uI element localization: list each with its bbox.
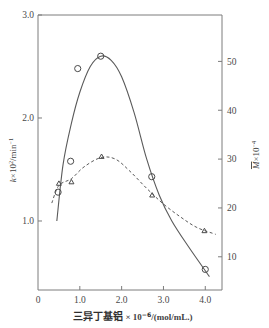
svg-text:k×102/min−1: k×102/min−1 bbox=[7, 138, 18, 182]
y-right-title-mult: ×10 bbox=[251, 147, 261, 162]
y-right-title-exp: −4 bbox=[250, 141, 257, 148]
y-left-tick-label: 1.0 bbox=[22, 216, 34, 226]
y-right-tick-label: 40 bbox=[227, 106, 237, 116]
x-axis-title: 三异丁基铝× 10−6/(mol/mL.) bbox=[73, 310, 192, 322]
y-left-title-unit: /min bbox=[8, 144, 18, 161]
y-right-tick-label: 20 bbox=[227, 203, 237, 213]
y-left-axis-title: k×102/min−1 bbox=[7, 138, 18, 182]
data-point-circle bbox=[75, 65, 81, 71]
x-tick-label: 3.0 bbox=[158, 295, 170, 305]
figure-container: 01.02.03.04.0 1.02.03.0 1020304050 k×102… bbox=[0, 0, 269, 328]
x-title-cn: 三异丁基铝 bbox=[73, 310, 123, 322]
data-point-circle bbox=[68, 158, 74, 164]
y-left-tick-label: 3.0 bbox=[22, 10, 34, 20]
svg-text:M×10−4: M×10−4 bbox=[250, 141, 261, 170]
y-right-tick-label: 10 bbox=[227, 252, 237, 262]
y-left-axis-ticks: 1.02.03.0 bbox=[22, 10, 42, 226]
y-right-axis-ticks: 1020304050 bbox=[218, 57, 237, 262]
y-left-title-mult: ×10 bbox=[8, 164, 18, 179]
x-tick-label: 4.0 bbox=[199, 295, 211, 305]
x-tick-label: 1.0 bbox=[74, 295, 86, 305]
x-title-exp: −6 bbox=[142, 311, 152, 318]
data-point-triangle bbox=[202, 228, 207, 232]
y-left-title-unit-exp: −1 bbox=[7, 138, 14, 145]
y-right-tick-label: 50 bbox=[227, 57, 237, 67]
x-axis-ticks: 01.02.03.04.0 bbox=[36, 286, 212, 305]
x-title-mult: × 10 bbox=[125, 312, 142, 322]
series-m-markers bbox=[56, 154, 206, 233]
y-right-axis-title: M×10−4 bbox=[250, 141, 261, 170]
series-m-curve bbox=[52, 157, 216, 234]
y-left-tick-label: 2.0 bbox=[22, 113, 34, 123]
chart-plot: 01.02.03.04.0 1.02.03.0 1020304050 k×102… bbox=[0, 0, 269, 328]
data-point-triangle bbox=[69, 179, 74, 183]
x-tick-label: 0 bbox=[36, 295, 41, 305]
x-tick-label: 2.0 bbox=[116, 295, 128, 305]
x-title-unit: /(mol/mL.) bbox=[150, 312, 192, 322]
svg-text:三异丁基铝× 10−6/(mol/mL.): 三异丁基铝× 10−6/(mol/mL.) bbox=[73, 310, 192, 322]
series-k-markers bbox=[55, 53, 208, 272]
series-k-curve bbox=[57, 56, 210, 277]
data-point-triangle bbox=[150, 193, 155, 197]
y-right-tick-label: 30 bbox=[227, 154, 237, 164]
